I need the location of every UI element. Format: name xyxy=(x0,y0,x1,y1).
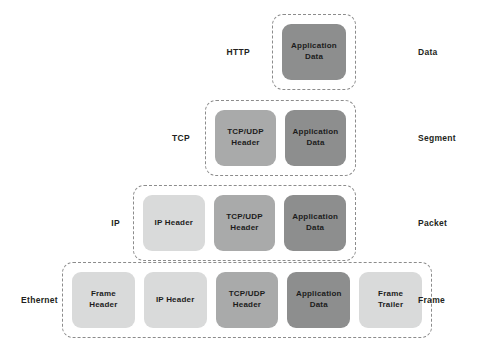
pdu-block-application-data: Application Data xyxy=(284,195,346,251)
pdu-block-label: Application Data xyxy=(296,289,342,310)
pdu-block-label: Application Data xyxy=(293,127,339,148)
pdu-block-tcp-udp-header: TCP/UDP Header xyxy=(215,110,276,166)
pdu-block-frame-trailer: Frame Trailer xyxy=(359,272,422,328)
pdu-block-label: TCP/UDP Header xyxy=(227,127,264,148)
pdu-block-label: Application Data xyxy=(291,41,337,62)
pdu-container-packet: IP Header TCP/UDP Header Application Dat… xyxy=(133,185,356,261)
pdu-block-label: IP Header xyxy=(155,218,194,229)
protocol-label-ip: IP xyxy=(60,185,120,261)
pdu-block-frame-header: Frame Header xyxy=(72,272,135,328)
layer-row-tcp: TCP TCP/UDP Header Application Data Segm… xyxy=(0,100,500,176)
pdu-block-label: Application Data xyxy=(292,212,338,233)
protocol-label-http: HTTP xyxy=(190,14,250,90)
unit-label-segment: Segment xyxy=(418,100,456,176)
pdu-block-tcp-udp-header: TCP/UDP Header xyxy=(216,272,279,328)
pdu-container-segment: TCP/UDP Header Application Data xyxy=(205,100,356,176)
pdu-block-ip-header: IP Header xyxy=(143,195,205,251)
pdu-block-label: Frame Trailer xyxy=(378,289,403,310)
unit-label-frame: Frame xyxy=(418,262,445,338)
protocol-label-ethernet: Ethernet xyxy=(0,262,58,338)
pdu-block-ip-header: IP Header xyxy=(144,272,207,328)
pdu-block-application-data: Application Data xyxy=(282,24,346,80)
pdu-block-application-data: Application Data xyxy=(287,272,350,328)
pdu-block-label: TCP/UDP Header xyxy=(229,289,266,310)
unit-label-data: Data xyxy=(418,14,438,90)
pdu-block-label: IP Header xyxy=(156,295,195,306)
pdu-block-application-data: Application Data xyxy=(285,110,346,166)
pdu-block-tcp-udp-header: TCP/UDP Header xyxy=(214,195,276,251)
pdu-container-frame: Frame Header IP Header TCP/UDP Header Ap… xyxy=(62,262,432,338)
pdu-block-label: TCP/UDP Header xyxy=(226,212,263,233)
protocol-label-tcp: TCP xyxy=(130,100,190,176)
pdu-block-label: Frame Header xyxy=(89,289,117,310)
layer-row-ip: IP IP Header TCP/UDP Header Application … xyxy=(0,185,500,261)
encapsulation-diagram: HTTP Application Data Data TCP TCP/UDP H… xyxy=(0,0,500,344)
layer-row-http: HTTP Application Data Data xyxy=(0,14,500,90)
unit-label-packet: Packet xyxy=(418,185,447,261)
layer-row-ethernet: Ethernet Frame Header IP Header TCP/UDP … xyxy=(0,262,500,338)
pdu-container-data: Application Data xyxy=(272,14,356,90)
